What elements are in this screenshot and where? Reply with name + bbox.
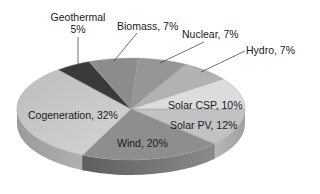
label-hydro: Hydro, 7% (246, 44, 295, 56)
label-cogeneration: Cogeneration, 32% (28, 109, 118, 121)
label-solar-csp: Solar CSP, 10% (168, 99, 243, 111)
leader-hydro (201, 51, 245, 72)
label-nuclear: Nuclear, 7% (182, 28, 239, 40)
label-biomass: Biomass, 7% (117, 20, 178, 32)
label-solar-pv: Solar PV, 12% (170, 119, 237, 131)
label-geothermal-value: 5% (50, 23, 106, 35)
label-wind: Wind, 20% (117, 137, 168, 149)
leader-biomass (114, 33, 137, 61)
leader-nuclear (160, 42, 204, 63)
label-geothermal-name: Geothermal (50, 11, 106, 23)
label-geothermal: Geothermal 5% (50, 11, 106, 35)
